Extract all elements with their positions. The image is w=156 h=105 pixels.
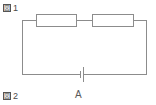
figure-2-number: 2 — [13, 91, 19, 101]
cjk-zu-glyph-icon: 図 — [3, 92, 11, 100]
wire-top-left-segment — [22, 20, 37, 21]
cell-positive-plate — [83, 67, 84, 82]
circuit-diagram-figure: 図1 A 図2 — [0, 0, 156, 105]
wire-top-middle-segment — [76, 20, 93, 21]
resistor-left — [36, 14, 77, 27]
cjk-zu-glyph-icon: 図 — [3, 4, 11, 12]
wire-bottom-left-segment — [22, 74, 81, 75]
wire-bottom-right-segment — [84, 74, 147, 75]
wire-top-right-segment — [133, 20, 147, 21]
resistor-right — [92, 14, 134, 27]
cell-negative-plate — [80, 71, 81, 78]
wire-right-segment — [146, 20, 147, 75]
figure-1-number: 1 — [13, 3, 19, 13]
figure-2-label: 図2 — [3, 92, 19, 101]
cell-label-a: A — [75, 90, 82, 100]
wire-left-segment — [22, 20, 23, 75]
battery-cell-symbol — [78, 66, 86, 83]
figure-1-label: 図1 — [3, 4, 19, 13]
